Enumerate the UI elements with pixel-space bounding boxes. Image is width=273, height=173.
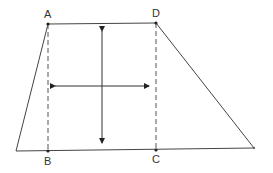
label-A: A — [44, 8, 52, 20]
label-B: B — [44, 155, 51, 167]
vertex-B-dot — [46, 149, 49, 152]
trapezoid-diagram: A D B C — [0, 0, 273, 173]
corner-bottom-right-dot — [253, 147, 255, 149]
vertex-C-dot — [154, 148, 157, 151]
vertex-A-dot — [46, 22, 49, 25]
right-leg — [156, 23, 254, 148]
bottom-base — [16, 148, 254, 151]
vertex-D-dot — [154, 21, 157, 24]
label-D: D — [152, 7, 160, 19]
left-leg — [16, 24, 48, 151]
top-base-AD — [48, 23, 156, 24]
label-C: C — [152, 153, 160, 165]
